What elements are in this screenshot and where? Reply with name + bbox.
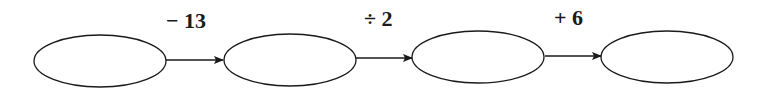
operation-label-3: + 6 (554, 7, 583, 29)
input-ellipse-1[interactable] (34, 35, 166, 87)
input-ellipse-3[interactable] (412, 31, 544, 83)
input-ellipse-4[interactable] (601, 31, 733, 83)
input-ellipse-2[interactable] (224, 34, 356, 86)
operation-label-1: − 13 (166, 10, 206, 32)
operation-label-2: ÷ 2 (364, 8, 393, 30)
